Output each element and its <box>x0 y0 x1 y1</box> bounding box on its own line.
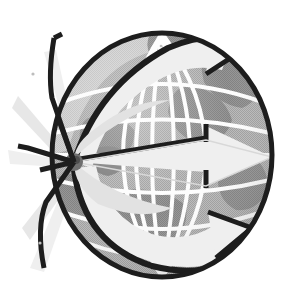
speck-upper-left <box>31 72 34 75</box>
speck-lower-left <box>38 241 41 244</box>
globe-logo-illustration <box>0 0 293 305</box>
arrow-tail-upper-left-cap <box>54 34 62 38</box>
logo-canvas: Global network globe logo Grayscale half… <box>0 0 293 305</box>
speck-top-right <box>160 45 163 48</box>
globe-sphere <box>52 22 272 277</box>
